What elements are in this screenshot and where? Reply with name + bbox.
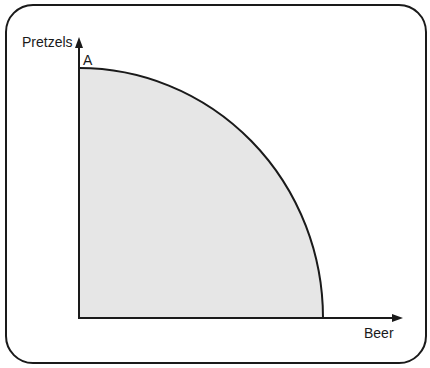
point-a-label: A [83,52,92,68]
y-axis-arrow-icon [75,37,83,48]
x-axis-arrow-icon [392,314,403,322]
x-axis-label: Beer [364,325,394,341]
y-axis-label: Pretzels [22,34,73,50]
feasible-region [79,68,323,318]
ppf-plot [0,0,430,368]
